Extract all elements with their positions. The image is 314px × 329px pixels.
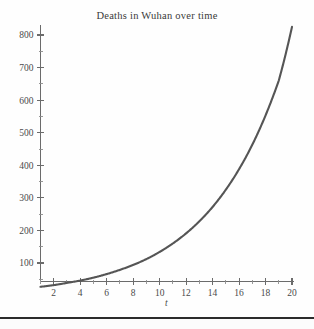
- x-tick-label: 8: [131, 288, 136, 298]
- y-tick-label: 700: [19, 63, 34, 73]
- x-tick-label: 2: [51, 288, 56, 298]
- y-tick-label: 600: [19, 96, 34, 106]
- y-tick-label: 300: [19, 193, 34, 203]
- x-tick-label: 14: [208, 288, 218, 298]
- y-tick-label: 200: [19, 226, 34, 236]
- chart-figure: Deaths in Wuhan over time 10020030040050…: [0, 0, 314, 310]
- axes-group: [41, 25, 295, 282]
- bottom-margin-strip: [0, 319, 314, 329]
- x-tick-label: 4: [78, 288, 83, 298]
- x-tick-label: 6: [104, 288, 109, 298]
- x-tick-label: 18: [261, 288, 271, 298]
- y-tick-label: 100: [19, 258, 34, 268]
- y-tick-label: 400: [19, 161, 34, 171]
- x-tick-label: 16: [234, 288, 244, 298]
- chart-plot-area: 100200300400500600700800 246810121416182…: [0, 0, 314, 310]
- y-tick-label: 800: [19, 30, 34, 40]
- x-axis-label: t: [165, 298, 168, 308]
- data-curve-deaths: [41, 27, 293, 287]
- y-tick-label: 500: [19, 128, 34, 138]
- x-tick-label: 20: [287, 288, 297, 298]
- x-tick-label: 10: [155, 288, 165, 298]
- plot-screenshot: Deaths in Wuhan over time 10020030040050…: [0, 0, 314, 329]
- x-tick-label: 12: [181, 288, 191, 298]
